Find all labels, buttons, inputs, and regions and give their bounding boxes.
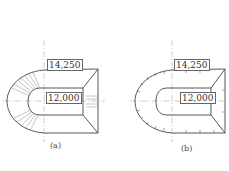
- caption-b: (b): [181, 144, 192, 153]
- outer-dimension-a: 14,250: [47, 59, 83, 71]
- caption-a: (a): [50, 141, 61, 150]
- figure-b: [130, 40, 229, 142]
- inner-dimension-a: 12,000: [46, 92, 82, 104]
- diagram-canvas: [0, 0, 229, 171]
- outer-dimension-b: 14,250: [174, 59, 210, 71]
- inner-dimension-b: 12,000: [180, 92, 216, 104]
- figure-a: [3, 40, 105, 142]
